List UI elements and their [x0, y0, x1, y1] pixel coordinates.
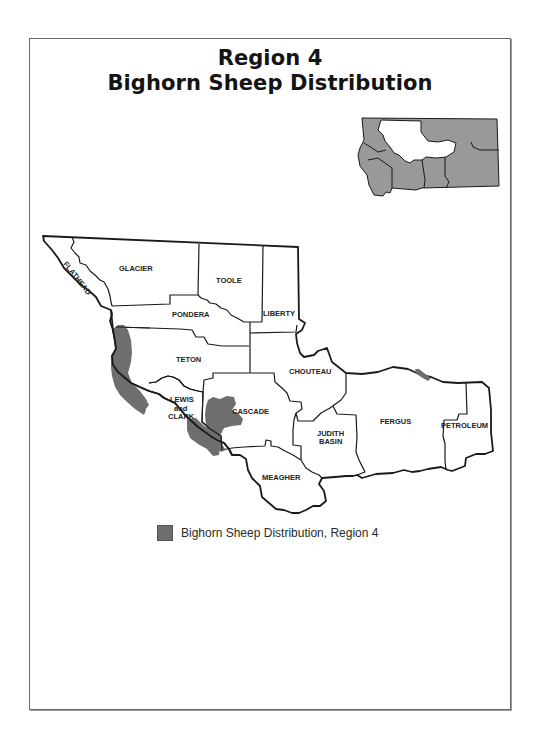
label-lewis: LEWIS [170, 395, 194, 404]
label-toole: TOOLE [216, 276, 242, 285]
legend: Bighorn Sheep Distribution, Region 4 [157, 525, 378, 541]
label-petroleum: PETROLEUM [441, 421, 488, 430]
label-cascade: CASCADE [232, 407, 269, 416]
label-glacier: GLACIER [119, 264, 153, 273]
label-pondera: PONDERA [172, 310, 210, 319]
label-meagher: MEAGHER [262, 473, 301, 482]
inset-montana-map [358, 118, 499, 196]
label-basin: BASIN [319, 437, 342, 446]
label-liberty: LIBERTY [263, 309, 295, 318]
label-chouteau: CHOUTEAU [289, 367, 332, 376]
label-teton: TETON [176, 355, 201, 364]
map-canvas: FLATHEAD GLACIER TOOLE LIBERTY PONDERA T… [0, 0, 535, 738]
label-fergus: FERGUS [380, 417, 411, 426]
legend-label: Bighorn Sheep Distribution, Region 4 [181, 526, 378, 540]
legend-swatch-distribution [157, 525, 173, 541]
label-clark: CLARK [168, 412, 195, 421]
